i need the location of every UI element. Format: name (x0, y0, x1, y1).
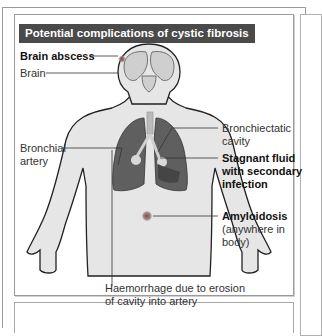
brain-abscess-icon (118, 55, 126, 63)
label-stagnant-fluid-line1: Stagnant fluid (222, 152, 295, 165)
label-bronchial-artery-line1: Bronchial (20, 142, 66, 155)
label-bronchiectatic-cavity-line1: Bronchiectatic (222, 122, 291, 135)
label-stagnant-fluid-line2: with secondary (222, 165, 302, 178)
label-amyloidosis-note-line2: body) (222, 236, 250, 249)
figure-title: Potential complications of cystic fibros… (19, 24, 255, 43)
label-amyloidosis: Amyloidosis (222, 210, 287, 223)
label-amyloidosis-note-line1: (anywhere in (222, 223, 285, 236)
label-brain-abscess: Brain abscess (20, 50, 95, 63)
label-bronchiectatic-cavity-line2: cavity (222, 135, 250, 148)
label-bronchial-artery-line2: artery (20, 155, 48, 168)
amyloidosis-spot-icon (141, 210, 153, 222)
label-stagnant-fluid-line3: infection (222, 178, 268, 191)
label-haemorrhage-line2: of cavity into artery (105, 295, 197, 308)
label-brain: Brain (20, 67, 46, 80)
head-icon (118, 44, 180, 104)
label-haemorrhage-line1: Haemorrhage due to erosion (105, 282, 245, 295)
